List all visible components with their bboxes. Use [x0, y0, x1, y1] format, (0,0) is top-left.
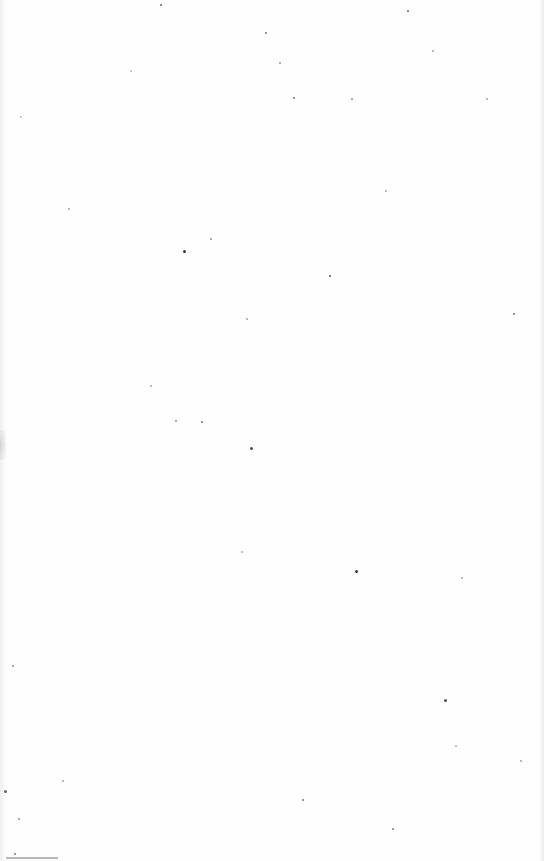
scan-speck [68, 208, 70, 210]
scan-speck [486, 98, 488, 100]
scan-speck [14, 853, 16, 855]
scan-speck [20, 116, 22, 118]
scan-speck [160, 4, 162, 6]
scan-speck [246, 318, 248, 320]
scan-speck [302, 799, 304, 801]
scan-speck [62, 780, 64, 782]
scan-speck [279, 62, 281, 64]
scan-speck [351, 98, 353, 100]
scan-speck [130, 70, 132, 72]
scan-speck [250, 447, 253, 450]
scan-speck [12, 665, 14, 667]
scan-speck [150, 385, 152, 387]
scan-speck [432, 50, 434, 52]
scan-speck [183, 250, 186, 253]
scan-speck [392, 828, 394, 830]
scan-speck [18, 818, 20, 820]
blank-scanned-page [0, 0, 544, 861]
scan-speck [520, 760, 522, 762]
scan-speck [355, 570, 358, 573]
scan-speck [329, 275, 331, 277]
scan-speck [407, 10, 409, 12]
scan-speck [201, 421, 203, 423]
scan-speck [241, 551, 243, 553]
scan-speck [455, 745, 457, 747]
scan-speck [385, 190, 387, 192]
scan-speck [4, 790, 7, 793]
scan-speck [293, 97, 295, 99]
scan-speck [444, 699, 447, 702]
scan-speck [513, 313, 515, 315]
scan-speck [175, 420, 177, 422]
page-edge-shadow-right [539, 0, 544, 861]
scan-speck [210, 238, 212, 240]
scan-speck [265, 32, 267, 34]
bottom-edge-line [6, 857, 58, 859]
page-edge-mark [0, 430, 6, 460]
scan-speck [461, 577, 463, 579]
